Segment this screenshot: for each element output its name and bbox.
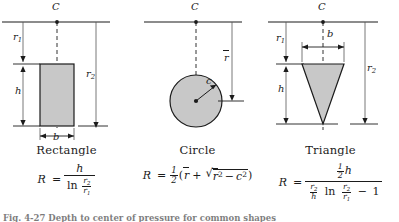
triangle-formula-equals: = <box>293 176 302 189</box>
triangle-formula-numerator: 1 2 h <box>333 163 355 181</box>
figure-caption: Fig. 4-27 Depth to center of pressure fo… <box>3 213 396 222</box>
half-numerator: 1 <box>337 163 344 171</box>
one-half-denominator: 2 <box>170 175 177 185</box>
h-variable: h <box>345 164 352 177</box>
close-paren: ) <box>248 169 252 182</box>
open-paren: ( <box>179 169 183 182</box>
panel-circle: C r c Circle R = 1 2 ( r + √ r2−c2 ) <box>130 0 265 222</box>
triangle-b-label: b <box>327 28 333 39</box>
r2-over-r1: r2 r1 <box>342 183 351 202</box>
r2-over-h: r2 h <box>309 183 318 201</box>
panel-triangle: C r1 h b r2 Triangle R = 1 2 h r2 <box>262 0 399 222</box>
radicand: r2−c2 <box>213 169 248 183</box>
r2-arrowhead <box>93 122 98 128</box>
radical-sign: √ <box>205 168 212 183</box>
circle-formula-lhs: R <box>143 169 151 182</box>
b-arrowhead-right <box>68 133 74 138</box>
ln-operator: ln <box>325 185 336 198</box>
rectangle-r1-label: r1 <box>13 31 22 44</box>
triangle-diagram: C r1 h b r2 <box>262 0 399 145</box>
r1-den-2: r1 <box>342 192 351 202</box>
rectangle-formula-denominator: ln r2 r1 <box>64 175 95 196</box>
triangle-formula-fraction: 1 2 h r2 h ln r2 r1 − 1 <box>305 163 382 202</box>
b-arrowhead-right <box>338 44 344 49</box>
r2-num-2: r2 <box>342 183 351 192</box>
b-arrowhead-left <box>302 44 308 49</box>
r2-numerator: r2 <box>82 177 91 186</box>
triangle-shape-name: Triangle <box>262 143 399 157</box>
r1-arrowhead <box>283 56 288 62</box>
rectangle-formula: R = h ln r2 r1 <box>0 163 133 196</box>
circle-centroid-label: C <box>191 1 199 12</box>
r2-over-r1: r2 r1 <box>82 177 91 196</box>
one-term: 1 <box>372 185 379 198</box>
circle-shape-name: Circle <box>130 143 265 157</box>
rectangle-formula-fraction: h ln r2 r1 <box>64 163 95 196</box>
h-den: h <box>310 192 317 201</box>
minus-operator: − <box>358 185 367 198</box>
h-arrowhead-bottom <box>20 120 25 126</box>
half-denominator: 2 <box>337 171 344 180</box>
ln-operator: ln <box>67 179 78 192</box>
triangle-centroid-label: C <box>318 1 326 12</box>
rbar-arrowhead <box>229 95 234 101</box>
triangle-formula-lhs: R <box>279 176 287 189</box>
b-arrowhead-left <box>40 133 46 138</box>
square-root: √ r2−c2 <box>205 168 248 183</box>
h-arrowhead-top <box>20 66 25 72</box>
r2-num: r2 <box>309 183 318 192</box>
h-arrowhead-top <box>283 66 288 72</box>
triangle-shape <box>302 64 344 124</box>
rbar-term: r <box>184 169 189 182</box>
plus-operator: + <box>192 169 201 182</box>
triangle-r2-label: r2 <box>367 62 376 75</box>
r1-arrowhead <box>20 56 25 62</box>
triangle-h-label: h <box>278 83 284 94</box>
circle-diagram: C r c <box>130 0 265 145</box>
rectangle-formula-equals: = <box>52 173 61 186</box>
rectangle-b-label: b <box>53 131 59 142</box>
rectangle-h-label: h <box>15 85 21 96</box>
triangle-formula-denominator: r2 h ln r2 r1 − 1 <box>305 181 382 202</box>
circle-rbar-label: r <box>224 52 229 63</box>
pressure-center-figure: C r1 h r2 b Rectangle R = h ln r2 r1 <box>0 0 399 222</box>
rectangle-formula-numerator: h <box>73 163 86 175</box>
rectangle-formula-lhs: R <box>38 173 46 186</box>
circle-formula: R = 1 2 ( r + √ r2−c2 ) <box>130 166 265 184</box>
rectangle-centroid-label: C <box>52 1 60 12</box>
one-half-fraction: 1 2 <box>170 166 177 184</box>
panel-rectangle: C r1 h r2 b Rectangle R = h ln r2 r1 <box>0 0 133 222</box>
r2-arrowhead <box>362 118 367 124</box>
triangle-formula: R = 1 2 h r2 h ln r2 r1 <box>262 163 399 202</box>
triangle-r1-label: r1 <box>276 32 285 45</box>
circle-radius-label: c <box>206 75 212 86</box>
one-half-numerator: 1 <box>170 166 177 175</box>
rectangle-shape <box>40 64 74 126</box>
rectangle-diagram: C r1 h r2 b <box>0 0 133 145</box>
rectangle-r2-label: r2 <box>86 68 95 81</box>
half-fraction: 1 2 <box>337 163 344 180</box>
r1-denominator: r1 <box>82 186 91 196</box>
h-arrowhead-bottom <box>283 118 288 124</box>
circle-formula-equals: = <box>157 169 166 182</box>
rectangle-shape-name: Rectangle <box>0 143 133 157</box>
